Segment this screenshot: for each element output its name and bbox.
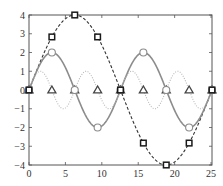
axis-ticks: 0510152025−4−3−2−101234: [14, 10, 216, 180]
square-marker: [209, 87, 215, 93]
y-tick-label: 0: [20, 85, 25, 96]
triangle-marker: [94, 86, 102, 93]
circle-marker: [140, 49, 147, 56]
y-tick-label: 3: [20, 28, 25, 39]
y-tick-label: −2: [14, 122, 25, 133]
x-tick-label: 25: [206, 168, 216, 179]
square-marker: [141, 140, 147, 146]
square-marker: [49, 34, 55, 40]
y-tick-label: −4: [14, 160, 25, 171]
x-tick-label: 5: [63, 168, 68, 179]
circle-marker: [71, 87, 78, 94]
y-tick-label: 4: [20, 10, 25, 21]
y-tick-label: −1: [14, 103, 25, 114]
triangle-marker: [48, 86, 56, 93]
square-marker: [186, 140, 192, 146]
y-tick-label: −3: [14, 141, 25, 152]
x-tick-label: 0: [27, 168, 32, 179]
circle-marker: [186, 124, 193, 131]
triangle-marker: [185, 86, 193, 93]
circle-marker: [94, 124, 101, 131]
square-marker: [26, 87, 32, 93]
square-marker: [72, 12, 78, 18]
y-tick-label: 1: [20, 66, 25, 77]
triangle-marker: [139, 86, 147, 93]
markers-layer: [25, 12, 216, 168]
x-tick-label: 20: [170, 168, 180, 179]
x-tick-label: 15: [133, 168, 143, 179]
square-marker: [163, 162, 169, 168]
x-tick-label: 10: [97, 168, 107, 179]
line-chart: 0510152025−4−3−2−101234: [0, 0, 223, 186]
y-tick-label: 2: [20, 47, 25, 58]
circle-marker: [163, 87, 170, 94]
circle-marker: [48, 49, 55, 56]
square-marker: [118, 87, 124, 93]
square-marker: [95, 34, 101, 40]
